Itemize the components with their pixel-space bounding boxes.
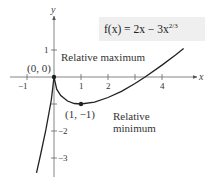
relative-maximum-label: Relative maximum bbox=[61, 51, 145, 63]
relative-minimum-label-line2: minimum bbox=[113, 122, 156, 134]
origin-point-label: (0, 0) bbox=[27, 62, 51, 75]
x-tick-label: 4 bbox=[160, 81, 165, 91]
function-graph: −1 1 2 4 1 −2 −3 y x (0, 0) Relative max… bbox=[0, 0, 210, 189]
min-point-label: (1, −1) bbox=[65, 108, 95, 121]
relative-maximum-point bbox=[52, 75, 56, 79]
x-tick-label: −1 bbox=[18, 81, 28, 91]
relative-minimum-point bbox=[79, 102, 83, 106]
x-axis-label: x bbox=[198, 71, 204, 82]
y-tick-label: −3 bbox=[58, 153, 68, 163]
y-axis-label: y bbox=[50, 4, 56, 15]
y-tick-label: −2 bbox=[58, 126, 68, 136]
x-tick-label: 2 bbox=[106, 81, 111, 91]
y-tick-label: 1 bbox=[44, 45, 49, 55]
x-tick-label: 1 bbox=[79, 81, 84, 91]
relative-minimum-label-line1: Relative bbox=[113, 110, 150, 122]
